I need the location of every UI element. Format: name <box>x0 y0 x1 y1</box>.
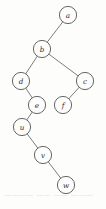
node-label-a: a <box>66 11 70 20</box>
caption-strip: ———— —— —— ——— <box>0 195 106 209</box>
node-label-u: u <box>20 123 25 132</box>
node-label-c: c <box>83 77 87 86</box>
caption-text: ———— —— —— ——— <box>4 195 106 199</box>
graph-edge-a-b <box>47 22 63 42</box>
graph-node-v[interactable]: v <box>34 146 51 163</box>
node-label-d: d <box>19 77 24 86</box>
graph-node-w[interactable]: w <box>57 176 74 193</box>
graph-node-c[interactable]: c <box>76 72 93 89</box>
graph-node-f[interactable]: f <box>54 96 71 113</box>
graph-node-e[interactable]: e <box>28 96 45 113</box>
node-label-v: v <box>41 151 45 160</box>
graph-edge-u-v <box>27 134 38 148</box>
graph-edge-b-c <box>49 54 78 76</box>
graph-edge-c-f <box>69 87 79 98</box>
graph-edge-v-w <box>48 162 61 178</box>
node-label-e: e <box>35 101 39 110</box>
graph-node-u[interactable]: u <box>13 118 30 135</box>
graph-edge-d-e <box>26 88 32 98</box>
graph-node-a[interactable]: a <box>59 6 76 23</box>
graph-node-b[interactable]: b <box>33 40 50 57</box>
graph-canvas: abdcefuvw <box>0 0 106 209</box>
node-label-w: w <box>63 181 69 190</box>
figure-container: abdcefuvw ———— —— —— ——— <box>0 0 106 209</box>
graph-edge-b-d <box>26 56 38 74</box>
graph-node-d[interactable]: d <box>12 72 29 89</box>
node-label-b: b <box>40 45 45 54</box>
graph-edge-e-u <box>27 112 32 120</box>
